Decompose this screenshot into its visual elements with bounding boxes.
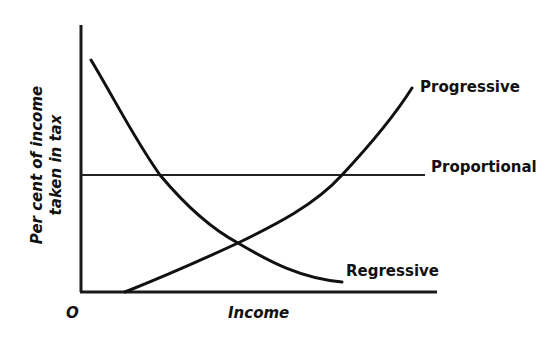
y-axis-label-line-2: taken in tax	[47, 113, 65, 215]
regressive-label: Regressive	[346, 262, 439, 280]
proportional-label: Proportional	[431, 158, 537, 176]
y-axis-label: Per cent of income taken in tax	[28, 86, 65, 244]
origin-label: O	[66, 304, 79, 322]
progressive-label: Progressive	[420, 78, 520, 96]
regressive-curve	[91, 60, 342, 282]
x-axis-label: Income	[228, 304, 289, 322]
y-axis-label-line-1: Per cent of income	[28, 86, 46, 244]
tax-systems-diagram: Progressive Proportional Regressive O In…	[0, 0, 557, 344]
